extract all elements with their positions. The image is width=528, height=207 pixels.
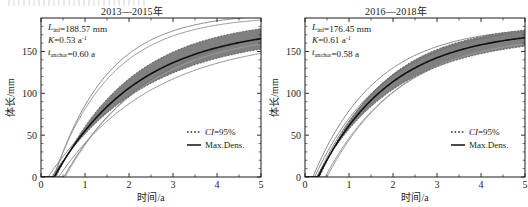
- x-tick-label: 0: [303, 179, 308, 190]
- y-tick-label: 100: [286, 88, 301, 99]
- x-tick-label: 5: [259, 179, 264, 190]
- x-tick-label: 4: [479, 179, 484, 190]
- panel-right: 2016—2018年 012345050100150时间/a体长/mmLinf=…: [264, 0, 528, 207]
- x-tick-label: 3: [171, 179, 176, 190]
- y-tick-label: 50: [291, 130, 301, 141]
- y-tick-label: 50: [27, 130, 37, 141]
- growth-curve-figure: 2013—2015年 012345050100150时间/a体长/mmLinf=…: [0, 0, 528, 207]
- y-tick-label: 100: [22, 88, 37, 99]
- y-axis-title: 体长/mm: [269, 78, 280, 117]
- panel-right-plot: 012345050100150时间/a体长/mmLinf=176.45 mmK=…: [264, 0, 528, 207]
- x-tick-label: 1: [347, 179, 352, 190]
- x-tick-label: 3: [435, 179, 440, 190]
- legend-label: CI=95%: [205, 127, 236, 137]
- parameter-annotation: Linf=188.57 mm: [47, 22, 107, 34]
- parameter-annotation: Linf=176.45 mm: [311, 22, 371, 34]
- legend: CI=95%Max.Dens.: [187, 127, 245, 150]
- x-tick-label: 1: [83, 179, 88, 190]
- y-tick-label: 150: [22, 46, 37, 57]
- y-axis-title: 体长/mm: [5, 78, 16, 117]
- x-tick-label: 4: [215, 179, 220, 190]
- x-axis-title: 时间/a: [137, 191, 165, 203]
- y-tick-label: 0: [296, 172, 301, 183]
- x-tick-label: 5: [523, 179, 528, 190]
- panel-left-plot: 012345050100150时间/a体长/mmLinf=188.57 mmK=…: [0, 0, 264, 207]
- y-tick-label: 150: [286, 46, 301, 57]
- parameter-annotation: K=0.53 a-1: [47, 34, 87, 45]
- x-tick-label: 2: [391, 179, 396, 190]
- parameter-annotation: tanchor=0.58 a: [312, 47, 359, 59]
- legend-label: Max.Dens.: [205, 140, 245, 150]
- legend-label: CI=95%: [469, 127, 500, 137]
- panel-left: 2013—2015年 012345050100150时间/a体长/mmLinf=…: [0, 0, 264, 207]
- x-tick-label: 2: [127, 179, 132, 190]
- y-tick-label: 0: [32, 172, 37, 183]
- parameter-annotation: K=0.61 a-1: [311, 34, 351, 45]
- x-tick-label: 0: [39, 179, 44, 190]
- x-axis-title: 时间/a: [401, 191, 429, 203]
- legend: CI=95%Max.Dens.: [451, 127, 509, 150]
- parameter-annotation: tanchor=0.60 a: [48, 47, 95, 59]
- legend-label: Max.Dens.: [469, 140, 509, 150]
